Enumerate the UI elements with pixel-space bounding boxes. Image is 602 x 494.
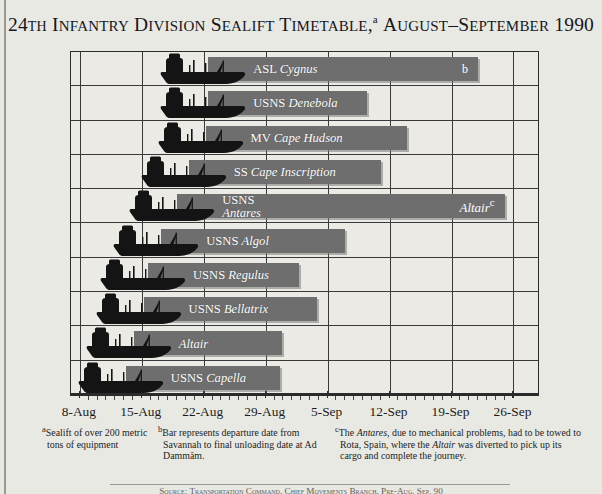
bar-label-italic: Cape Hudson bbox=[274, 130, 343, 144]
bar-label-italic: Cape Inscription bbox=[251, 165, 336, 179]
bar-label-plain: MV bbox=[251, 130, 274, 144]
source-note: Source: Transportation Command, Chief Mo… bbox=[0, 486, 602, 494]
bar-label-italic: Denebola bbox=[289, 96, 338, 110]
chart-row: USNS Algol bbox=[71, 224, 538, 258]
footnote-a-text: Sealift of over 200 metric tons of equip… bbox=[46, 427, 147, 450]
axis-tick-minor bbox=[256, 396, 257, 400]
bar-label: USNS Capella bbox=[171, 370, 246, 385]
chart-row: USNS Bellatrix bbox=[71, 292, 538, 326]
bar-label: Altair bbox=[179, 336, 208, 351]
axis-tick-minor bbox=[504, 396, 505, 400]
axis-tick-minor bbox=[132, 396, 133, 400]
footnote-b-text: Bar represents departure date from Savan… bbox=[162, 427, 316, 461]
footnote-c: cThe Antares, due to mechanical problems… bbox=[335, 424, 585, 462]
axis-tick-minor bbox=[415, 396, 416, 400]
axis-tick-minor bbox=[353, 396, 354, 400]
axis-tick-minor bbox=[486, 396, 487, 400]
footnotes-group: aSealift of over 200 metric tons of equi… bbox=[0, 424, 602, 480]
axis-tick-minor bbox=[238, 396, 239, 400]
title-text: 24TH INFANTRY DIVISION SEALIFT TIMETABLE… bbox=[8, 14, 373, 35]
axis-tick-major bbox=[265, 391, 266, 398]
axis-tick-major bbox=[79, 391, 80, 398]
axis-tick-minor bbox=[185, 396, 186, 400]
bar-note: b bbox=[420, 62, 468, 77]
chart-row: ASL Cygnusb bbox=[71, 52, 538, 86]
footnote-a: aSealift of over 200 metric tons of equi… bbox=[42, 424, 152, 450]
bar-note-marker: b bbox=[462, 62, 468, 76]
axis-tick-minor bbox=[167, 396, 168, 400]
footnote-text-run: The bbox=[339, 427, 357, 438]
bar-label: SS Cape Inscription bbox=[234, 165, 336, 180]
x-axis bbox=[70, 394, 539, 402]
chart-row: USNS Denebola bbox=[71, 86, 538, 120]
axis-tick-minor bbox=[274, 396, 275, 400]
bar-label-plain: ASL bbox=[253, 62, 279, 76]
axis-tick-minor bbox=[212, 396, 213, 400]
chart-row: USNS Regulus bbox=[71, 258, 538, 292]
chart-row: Altair bbox=[71, 326, 538, 360]
footnote-italic-term: Antares bbox=[357, 427, 387, 438]
axis-tick-minor bbox=[344, 396, 345, 400]
bar-label: USNS Denebola bbox=[253, 96, 337, 111]
bar-label-plain: USNS bbox=[189, 302, 224, 316]
axis-tick-minor bbox=[123, 396, 124, 400]
bar-label-italic: Antares bbox=[222, 205, 261, 219]
axis-tick-minor bbox=[406, 396, 407, 400]
bar-label-plain: USNS bbox=[171, 370, 206, 384]
axis-tick-minor bbox=[380, 396, 381, 400]
axis-tick-minor bbox=[158, 396, 159, 400]
x-axis-tick-labels: 8-Aug15-Aug22-Aug29-Aug5-Sep12-Sep19-Sep… bbox=[0, 404, 602, 422]
bar-label-italic: Cygnus bbox=[280, 62, 318, 76]
axis-tick-minor bbox=[477, 396, 478, 400]
axis-tick-minor bbox=[150, 396, 151, 400]
bar-label-italic: Capella bbox=[206, 370, 246, 384]
bar-label: USNS Algol bbox=[206, 233, 269, 248]
axis-tick-minor bbox=[495, 396, 496, 400]
axis-tick-minor bbox=[229, 396, 230, 400]
x-tick-label: 15-Aug bbox=[120, 404, 161, 420]
axis-tick-minor bbox=[220, 396, 221, 400]
bar-label: USNSAntares bbox=[222, 194, 261, 219]
footnote-c-text: The Antares, due to mechanical problems,… bbox=[339, 427, 581, 461]
axis-tick-minor bbox=[291, 396, 292, 400]
axis-tick-major bbox=[512, 391, 513, 398]
chart-row: SS Cape Inscription bbox=[71, 155, 538, 189]
bar-label-italic: Bellatrix bbox=[224, 302, 268, 316]
axis-tick-minor bbox=[247, 396, 248, 400]
title-footnote-marker-a: a bbox=[373, 13, 378, 25]
axis-tick-minor bbox=[282, 396, 283, 400]
chart-row: USNS Capella bbox=[71, 361, 538, 395]
axis-tick-minor bbox=[335, 396, 336, 400]
axis-tick-minor bbox=[397, 396, 398, 400]
axis-tick-minor bbox=[424, 396, 425, 400]
figure-page: 24TH INFANTRY DIVISION SEALIFT TIMETABLE… bbox=[0, 0, 602, 494]
bar-label-italic: Altair bbox=[179, 336, 208, 350]
axis-tick-major bbox=[141, 391, 142, 398]
bar-label-italic: Regulus bbox=[228, 267, 269, 281]
axis-tick-minor bbox=[194, 396, 195, 400]
chart-row: USNSAntaresAltairc bbox=[71, 189, 538, 223]
axis-tick-minor bbox=[105, 396, 106, 400]
title-date-range: AUGUST–SEPTEMBER 1990 bbox=[383, 14, 594, 35]
axis-tick-minor bbox=[362, 396, 363, 400]
x-tick-label: 8-Aug bbox=[62, 404, 96, 420]
axis-tick-minor bbox=[459, 396, 460, 400]
axis-tick-minor bbox=[88, 396, 89, 400]
axis-tick-minor bbox=[114, 396, 115, 400]
axis-tick-major bbox=[203, 391, 204, 398]
bar-note-marker: c bbox=[490, 197, 495, 209]
axis-tick-minor bbox=[300, 396, 301, 400]
bar-label-plain: USNS bbox=[206, 233, 241, 247]
axis-tick-major bbox=[327, 391, 328, 398]
axis-tick-minor bbox=[371, 396, 372, 400]
axis-tick-major bbox=[389, 391, 390, 398]
bar-label-plain: USNS bbox=[253, 96, 288, 110]
bar-label: USNS Bellatrix bbox=[189, 302, 268, 317]
axis-tick-minor bbox=[318, 396, 319, 400]
chart-plot-area: ASL CygnusbUSNS DenebolaMV Cape HudsonSS… bbox=[70, 51, 539, 394]
x-tick-label: 29-Aug bbox=[244, 404, 285, 420]
x-tick-label: 26-Sep bbox=[493, 404, 531, 420]
axis-tick-minor bbox=[176, 396, 177, 400]
bar-label-italic: Algol bbox=[242, 233, 269, 247]
x-tick-label: 22-Aug bbox=[182, 404, 223, 420]
